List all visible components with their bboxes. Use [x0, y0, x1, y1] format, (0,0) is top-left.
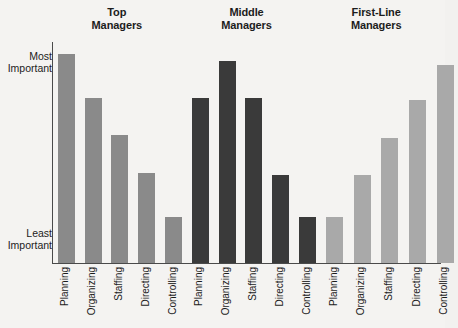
bar-top-directing[interactable]	[138, 173, 155, 263]
bar-slot	[404, 43, 432, 263]
bar-slot	[349, 43, 377, 263]
group-header-line1: First-Line	[311, 6, 441, 19]
bar-first-line-staffing[interactable]	[381, 138, 398, 263]
bar-first-line-planning[interactable]	[326, 217, 343, 263]
bar-middle-planning[interactable]	[192, 98, 209, 263]
x-tick: Staffing	[106, 265, 133, 327]
bar-group-top-managers	[53, 43, 187, 263]
x-tick: Planning	[52, 265, 79, 327]
group-header-row: Top Managers Middle Managers First-Line …	[52, 6, 441, 40]
bar-first-line-controlling[interactable]	[437, 65, 454, 263]
x-tick-label-middle-controlling: Controlling	[302, 267, 312, 315]
x-axis-group-first-line-managers: Planning Organizing Staffing Directing C…	[320, 265, 458, 327]
group-header-line2: Managers	[311, 19, 441, 32]
bar-slot	[376, 43, 404, 263]
x-tick: Organizing	[213, 265, 240, 327]
x-tick-label-middle-planning: Planning	[194, 267, 204, 306]
x-tick: Directing	[132, 265, 159, 327]
x-tick-label-top-controlling: Controlling	[168, 267, 178, 315]
plot-area	[52, 42, 441, 264]
x-tick-label-middle-directing: Directing	[275, 267, 285, 306]
group-header-middle-managers: Middle Managers	[182, 6, 312, 40]
x-tick-label-top-planning: Planning	[60, 267, 70, 306]
bar-top-controlling[interactable]	[165, 217, 182, 263]
bar-first-line-directing[interactable]	[409, 100, 426, 263]
x-axis-labels: Planning Organizing Staffing Directing C…	[52, 265, 441, 327]
y-axis-label-least-line2: Important	[4, 239, 52, 251]
bar-group-first-line-managers	[321, 43, 458, 263]
y-axis-label-most-important: Most Important	[4, 50, 52, 74]
y-axis-label-least-important: Least Important	[4, 227, 52, 251]
group-header-line1: Top	[52, 6, 182, 19]
x-tick-label-top-organizing: Organizing	[87, 267, 97, 315]
y-axis-label-most-line2: Important	[4, 62, 52, 74]
x-tick: Staffing	[240, 265, 267, 327]
x-tick: Planning	[186, 265, 213, 327]
x-tick-label-first-line-staffing: Staffing	[384, 267, 394, 301]
bar-slot	[321, 43, 349, 263]
bar-middle-directing[interactable]	[272, 175, 289, 263]
x-tick-label-top-staffing: Staffing	[114, 267, 124, 301]
x-tick: Organizing	[348, 265, 376, 327]
x-tick-label-top-directing: Directing	[141, 267, 151, 306]
x-tick: Controlling	[430, 265, 458, 327]
y-axis-label-least-line1: Least	[4, 227, 52, 239]
x-tick: Planning	[320, 265, 348, 327]
group-header-first-line-managers: First-Line Managers	[311, 6, 441, 40]
bar-slot	[160, 43, 187, 263]
y-axis: Most Important Least Important	[0, 42, 52, 264]
group-header-line1: Middle	[182, 6, 312, 19]
bar-slot	[431, 43, 458, 263]
bar-slot	[214, 43, 241, 263]
bar-slot	[133, 43, 160, 263]
x-tick: Controlling	[159, 265, 186, 327]
bar-slot	[294, 43, 321, 263]
x-tick-label-first-line-directing: Directing	[412, 267, 422, 306]
y-axis-label-most-line1: Most	[4, 50, 52, 62]
bar-slot	[241, 43, 268, 263]
bars-row	[53, 43, 441, 263]
x-tick-label-middle-organizing: Organizing	[221, 267, 231, 315]
x-tick: Controlling	[293, 265, 320, 327]
bar-top-planning[interactable]	[58, 54, 75, 263]
x-tick-label-first-line-organizing: Organizing	[356, 267, 366, 315]
bar-middle-controlling[interactable]	[299, 217, 316, 263]
group-header-line2: Managers	[182, 19, 312, 32]
bar-first-line-organizing[interactable]	[354, 175, 371, 263]
bar-slot	[267, 43, 294, 263]
x-axis-group-top-managers: Planning Organizing Staffing Directing C…	[52, 265, 186, 327]
bar-slot	[187, 43, 214, 263]
bar-group-middle-managers	[187, 43, 321, 263]
group-header-top-managers: Top Managers	[52, 6, 182, 40]
group-header-line2: Managers	[52, 19, 182, 32]
bar-top-organizing[interactable]	[85, 98, 102, 263]
bar-middle-staffing[interactable]	[245, 98, 262, 263]
x-tick-label-middle-staffing: Staffing	[248, 267, 258, 301]
x-tick: Staffing	[375, 265, 403, 327]
bar-slot	[80, 43, 107, 263]
x-tick-label-first-line-planning: Planning	[329, 267, 339, 306]
bar-slot	[53, 43, 80, 263]
x-tick: Organizing	[79, 265, 106, 327]
bar-slot	[107, 43, 134, 263]
bar-middle-organizing[interactable]	[219, 61, 236, 263]
x-tick-label-first-line-controlling: Controlling	[439, 267, 449, 315]
x-axis-group-middle-managers: Planning Organizing Staffing Directing C…	[186, 265, 320, 327]
x-tick: Directing	[266, 265, 293, 327]
x-tick: Directing	[403, 265, 431, 327]
bar-top-staffing[interactable]	[111, 135, 128, 263]
